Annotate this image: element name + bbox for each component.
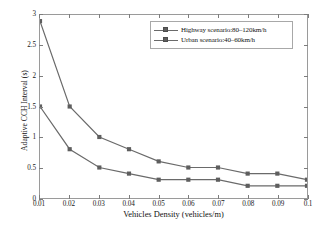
legend-label: Highway scenario:80–120km/h [181, 26, 266, 34]
y-tick-mark [39, 168, 43, 169]
data-point-marker [216, 165, 220, 169]
data-point-marker [305, 184, 307, 188]
y-tick-label: 1 [33, 133, 37, 141]
x-tick-mark [248, 195, 249, 199]
data-point-marker [40, 19, 42, 23]
data-point-marker [68, 104, 72, 108]
y-tick-label: 1.5 [27, 103, 36, 111]
x-tick-label: 0.1 [304, 200, 313, 208]
x-tick-label: 0.04 [123, 200, 135, 208]
y-tick-label: 0.5 [27, 164, 36, 172]
x-tick-mark [69, 14, 70, 18]
x-tick-mark [218, 195, 219, 199]
x-tick-mark [218, 14, 219, 18]
x-tick-mark [159, 195, 160, 199]
x-tick-mark [308, 195, 309, 199]
y-tick-mark [39, 137, 43, 138]
legend-item-urban[interactable]: Urban scenario:40–60km/h [154, 35, 288, 45]
x-tick-label: 0.03 [93, 200, 105, 208]
y-tick-mark [304, 76, 308, 77]
x-tick-mark [129, 195, 130, 199]
data-point-marker [305, 178, 307, 182]
x-tick-mark [308, 14, 309, 18]
data-point-marker [68, 147, 72, 151]
y-tick-mark [39, 14, 43, 15]
y-tick-mark [304, 14, 308, 15]
y-tick-mark [304, 137, 308, 138]
y-tick-label: 2 [33, 72, 37, 80]
y-tick-mark [304, 107, 308, 108]
x-tick-label: 0.08 [242, 200, 254, 208]
data-point-marker [157, 178, 161, 182]
x-tick-mark [99, 195, 100, 199]
x-axis-title: Vehicles Density (vehicles/m) [39, 210, 308, 219]
legend-line-marker-icon [154, 26, 178, 35]
legend-line-marker-icon [154, 36, 178, 45]
y-axis-title: Adaptive CCH Interval (s) [20, 41, 29, 181]
y-tick-mark [39, 45, 43, 46]
data-point-marker [127, 172, 131, 176]
x-tick-mark [278, 195, 279, 199]
legend-item-highway[interactable]: Highway scenario:80–120km/h [154, 25, 288, 35]
data-point-marker [275, 184, 279, 188]
data-point-marker [275, 172, 279, 176]
data-point-marker [157, 159, 161, 163]
x-tick-mark [129, 14, 130, 18]
data-point-marker [127, 147, 131, 151]
legend-label: Urban scenario:40–60km/h [181, 36, 255, 44]
x-tick-label: 0.06 [182, 200, 194, 208]
x-tick-mark [188, 195, 189, 199]
data-point-marker [246, 184, 250, 188]
y-tick-mark [304, 45, 308, 46]
y-tick-mark [39, 107, 43, 108]
data-point-marker [186, 165, 190, 169]
data-point-marker [97, 165, 101, 169]
chart-figure: 0.010.020.030.040.050.060.070.080.090.1 … [0, 0, 325, 239]
x-tick-mark [278, 14, 279, 18]
data-point-marker [216, 178, 220, 182]
x-tick-label: 0.02 [63, 200, 75, 208]
y-tick-mark [39, 76, 43, 77]
x-tick-label: 0.09 [272, 200, 284, 208]
x-tick-label: 0.05 [152, 200, 164, 208]
data-point-marker [186, 178, 190, 182]
x-tick-label: 0.07 [212, 200, 224, 208]
x-tick-mark [188, 14, 189, 18]
x-tick-mark [99, 14, 100, 18]
x-tick-mark [69, 195, 70, 199]
y-tick-label: 2.5 [27, 41, 36, 49]
data-point-marker [97, 135, 101, 139]
y-tick-label: 0 [33, 195, 37, 203]
x-tick-mark [248, 14, 249, 18]
x-tick-mark [159, 14, 160, 18]
y-tick-mark [304, 168, 308, 169]
data-point-marker [246, 172, 250, 176]
chart-legend: Highway scenario:80–120km/h Urban scenar… [150, 21, 293, 49]
y-tick-label: 3 [33, 10, 37, 18]
